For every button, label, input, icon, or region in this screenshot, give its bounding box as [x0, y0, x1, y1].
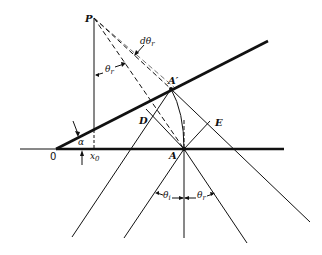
incident-ray-through-a-prime: [72, 89, 171, 237]
point-a: [182, 147, 186, 151]
label-alpha: α: [78, 137, 84, 147]
reflected-ray-from-a-prime: [171, 89, 310, 222]
theta-i-arrowhead-right: [179, 196, 184, 200]
label-x0: x0: [90, 151, 100, 163]
theta-r-arrowhead-left: [184, 196, 189, 200]
incident-ray-to-a: [124, 149, 184, 238]
label-origin: 0: [50, 151, 56, 162]
label-p: P: [84, 13, 93, 24]
label-e: E: [214, 117, 223, 128]
reflection-diagram: P A′ D E A 0 α x0 dθr θr θi θr: [0, 0, 322, 255]
label-theta-i: θi: [163, 190, 171, 202]
dashed-ray-p-to-a-prime-ext: [94, 18, 171, 89]
theta-r-top-arrowhead-right: [121, 62, 126, 67]
point-a-prime: [169, 87, 173, 91]
label-a: A: [168, 150, 177, 161]
label-a-prime: A′: [167, 75, 179, 86]
wavefront-a-e: [184, 121, 210, 149]
label-d: D: [138, 115, 148, 126]
label-theta-r-bottom: θr: [197, 190, 206, 202]
inclined-surface: [56, 41, 268, 149]
wavefront-d-a: [146, 109, 184, 149]
label-theta-r-top: θr: [105, 64, 114, 76]
x0-arrowhead: [80, 150, 84, 156]
theta-r-top-arrowhead-left: [95, 73, 99, 77]
reflected-ray-from-a: [184, 149, 247, 243]
dashed-ray-p-outer: [94, 18, 175, 88]
